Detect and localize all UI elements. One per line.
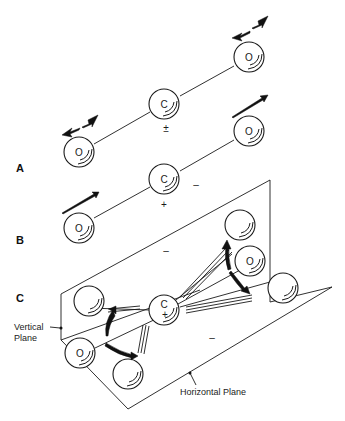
arrow-icon [62,192,99,214]
section-c: O C + O [14,180,332,409]
carbon-atom-c: C + [149,295,179,325]
oxygen-atom-b-left: O [64,213,94,243]
oxygen-atom-c-bottom [113,359,143,389]
bond-a-left [94,112,150,144]
oxygen-atom-b-right: O [234,116,264,146]
arrow-icon [232,95,268,118]
pointer-line [190,373,196,385]
section-label-c: C [16,292,24,304]
charge-symbol: + [161,199,167,210]
oxygen-atom-c-upper-left [74,286,104,316]
bond-b-right [180,140,234,171]
atom-label: O [76,348,84,359]
double-arrow-icon [62,115,98,137]
section-a: O C O ± A [16,16,268,174]
vertical-plane-label: Plane [14,333,37,343]
atom-label: O [245,52,253,63]
double-arrow-icon [232,16,268,41]
charge-symbol: – [209,332,215,343]
oxygen-atom-a-left: O [64,137,94,167]
oxygen-atom-c-mid-right: O [235,246,265,276]
motion-lines [108,248,252,354]
vibration-modes-diagram: O C O ± A [0,0,345,421]
vertical-plane-label: Vertical [14,322,44,332]
oxygen-atom-c-lower-left: O [65,338,95,368]
charge-symbol: + [162,309,168,320]
horizontal-plane-label: Horizontal Plane [180,387,246,397]
section-label-b: B [16,234,24,246]
carbon-atom-b: C [149,164,179,194]
bond [95,318,158,348]
bond-a-right [180,66,234,96]
oxygen-atom-c-far-right [268,273,298,303]
atom-label: C [160,99,167,110]
atom-label: O [245,126,253,137]
oxygen-atom-a-right: O [234,42,264,72]
atom-label: O [75,147,83,158]
charge-symbol: – [163,245,169,256]
charge-symbol: – [193,179,199,190]
oxygen-atom-c-upper-right [225,210,255,240]
pointer-line [50,327,60,328]
atom-label: O [75,223,83,234]
bond-b-left [94,187,150,218]
charge-symbol: ± [163,123,169,134]
carbon-atom-a: C [149,89,179,119]
curved-arrow-icon [105,343,138,360]
atom-label: C [160,174,167,185]
section-label-a: A [16,162,24,174]
atom-label: O [246,256,254,267]
